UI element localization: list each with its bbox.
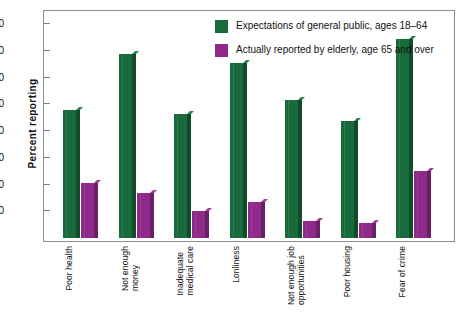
x-axis-label: Poor health (65, 246, 75, 291)
bar-top (76, 107, 83, 110)
bar-face (248, 202, 261, 238)
bar-top (205, 208, 212, 211)
y-tick-label: 70 (0, 45, 4, 57)
bar-expectations (285, 100, 302, 238)
bar-reported (303, 221, 320, 238)
y-tick-label: 20 (0, 179, 4, 191)
bar-face (174, 114, 187, 238)
bar-expectations (341, 121, 358, 239)
legend-swatch-purple (215, 44, 228, 57)
bar-side (354, 121, 358, 239)
y-tick-label: 50 (0, 98, 4, 110)
bar-expectations (174, 114, 191, 238)
x-axis-label: Inadequate medical care (176, 246, 195, 295)
x-axis-label: Lonliness (232, 246, 242, 283)
bar-face (81, 183, 94, 238)
legend-label: Expectations of general public, ages 18–… (236, 20, 427, 32)
bar-top (427, 168, 434, 171)
chart-legend: Expectations of general public, ages 18–… (215, 16, 434, 64)
bar-top (187, 111, 194, 114)
bar-side (132, 54, 136, 238)
x-axis-label: Not enough money (121, 246, 140, 291)
bar-face (137, 193, 150, 238)
bar-top (372, 220, 379, 223)
bar-expectations (119, 54, 136, 238)
bar-top (150, 190, 157, 193)
y-axis-title: Percent reporting (27, 64, 38, 184)
y-tick-label: 30 (0, 152, 4, 164)
bar-side (187, 114, 191, 238)
bar-face (303, 221, 316, 238)
bar-side (150, 193, 154, 238)
bar-group (63, 11, 98, 238)
bar-side (409, 39, 413, 238)
bar-side (243, 63, 247, 238)
bar-top (261, 199, 268, 202)
legend-item: Expectations of general public, ages 18–… (215, 16, 434, 36)
bar-reported (359, 223, 376, 238)
bar-side (205, 211, 209, 238)
bar-side (94, 183, 98, 238)
y-tick-label: 80 (0, 18, 4, 30)
bar-side (261, 202, 265, 238)
bar-chart: Percent reporting 1020304050607080 Poor … (0, 0, 465, 313)
bar-top (132, 51, 139, 54)
bar-reported (248, 202, 265, 238)
bar-top (94, 180, 101, 183)
bar-top (316, 218, 323, 221)
y-tick-label: 40 (0, 125, 4, 137)
bar-face (285, 100, 298, 238)
x-axis-label: Not enough job opportunities (287, 246, 306, 305)
y-tick-label: 60 (0, 72, 4, 84)
bar-group (119, 11, 154, 238)
bar-face (396, 39, 409, 238)
bar-face (63, 110, 76, 238)
y-tick-label: 10 (0, 205, 4, 217)
bar-reported (414, 171, 431, 238)
bar-side (76, 110, 80, 238)
bar-side (427, 171, 431, 238)
legend-swatch-green (215, 20, 228, 33)
bar-face (230, 63, 243, 238)
bar-reported (192, 211, 209, 238)
bar-reported (137, 193, 154, 238)
x-axis-label: Poor housing (343, 246, 353, 297)
bar-expectations (396, 39, 413, 238)
bar-group (174, 11, 209, 238)
bar-side (316, 221, 320, 238)
legend-label: Actually reported by elderly, age 65 and… (236, 44, 434, 56)
bar-face (192, 211, 205, 238)
bar-face (119, 54, 132, 238)
legend-item: Actually reported by elderly, age 65 and… (215, 40, 434, 60)
bar-face (359, 223, 372, 238)
x-axis-label: Fear of crime (398, 246, 408, 297)
bar-face (414, 171, 427, 238)
bar-reported (81, 183, 98, 238)
bar-face (341, 121, 354, 239)
bar-expectations (230, 63, 247, 238)
bar-side (298, 100, 302, 238)
bar-side (372, 223, 376, 238)
bar-expectations (63, 110, 80, 238)
bar-top (354, 118, 361, 121)
